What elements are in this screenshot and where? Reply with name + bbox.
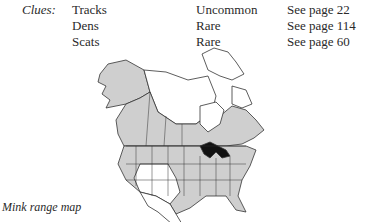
clue-page-ref: See page 60 [287, 34, 350, 50]
clue-row: Tracks Uncommon See page 22 [0, 2, 365, 18]
map-caption: Mink range map [2, 200, 81, 215]
clue-name: Dens [72, 18, 99, 34]
quebec-region [232, 86, 252, 108]
arctic-islands [202, 48, 244, 80]
clue-page-ref: See page 114 [287, 18, 356, 34]
clue-frequency: Uncommon [196, 2, 257, 18]
clue-page-ref: See page 22 [287, 2, 350, 18]
clue-name: Tracks [72, 2, 107, 18]
clue-frequency: Rare [196, 18, 221, 34]
clue-row: Dens Rare See page 114 [0, 18, 365, 34]
range-map [96, 46, 271, 222]
